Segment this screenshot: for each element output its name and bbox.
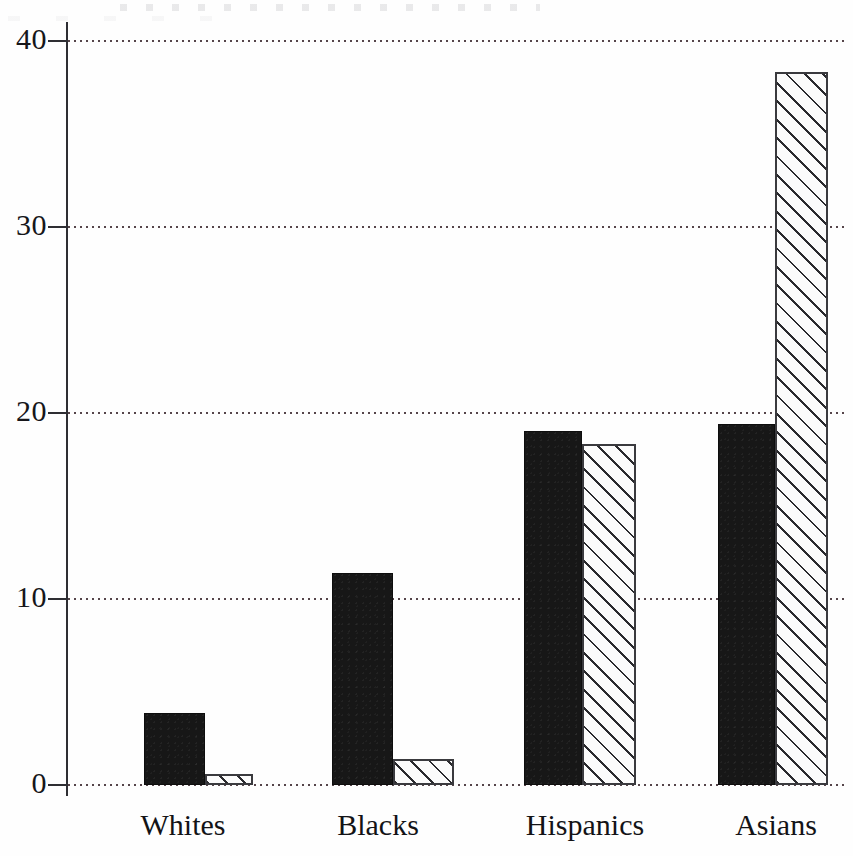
bar-blacks-hatched [393,759,454,785]
gridline-30 [68,226,845,228]
tick-mark-40 [48,40,66,42]
category-label-asians: Asians [708,808,844,842]
category-label-blacks: Blacks [318,808,438,842]
tick-mark-10 [48,598,66,600]
bar-hispanics-solid [524,431,582,785]
bar-hispanics-hatched [582,444,636,785]
y-tick-label-10: 10 [16,582,47,612]
tick-mark-0 [48,784,66,786]
bar-asians-solid [718,424,775,785]
bar-chart-plot-area: 40 30 20 10 0 Whites Blacks Hispanics As… [0,0,853,856]
bar-blacks-solid [332,573,393,785]
y-tick-label-30: 30 [16,210,47,240]
category-label-whites: Whites [118,808,248,842]
tick-mark-20 [48,412,66,414]
chart-page: 40 30 20 10 0 Whites Blacks Hispanics As… [0,0,853,856]
gridline-40 [68,40,845,42]
y-tick-label-20: 20 [16,396,47,426]
bar-asians-hatched [775,72,828,785]
y-axis-line [66,22,68,796]
y-tick-label-0: 0 [32,768,48,798]
category-label-hispanics: Hispanics [500,808,670,842]
bar-whites-solid [144,713,205,785]
gridline-20 [68,412,845,414]
bar-whites-hatched [205,774,253,785]
y-tick-label-40: 40 [16,24,47,54]
tick-mark-30 [48,226,66,228]
